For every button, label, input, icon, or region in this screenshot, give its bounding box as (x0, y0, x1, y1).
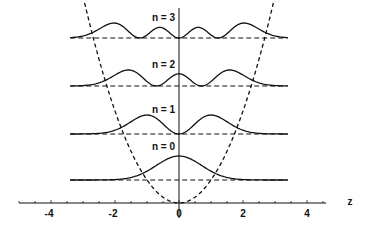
level-label: n = 2 (152, 59, 176, 70)
level-label: n = 0 (152, 141, 176, 152)
level-label: n = 3 (152, 12, 176, 23)
tick-label: 2 (240, 208, 246, 219)
oscillator-diagram: -4-2024z n = 0n = 1n = 2n = 3 (0, 0, 372, 229)
level-label: n = 1 (152, 104, 176, 115)
tick-label: 4 (304, 208, 310, 219)
z-axis: -4-2024z (19, 196, 353, 219)
tick-label: -2 (109, 208, 118, 219)
axis-label-z: z (348, 196, 353, 207)
tick-label: -4 (45, 208, 54, 219)
